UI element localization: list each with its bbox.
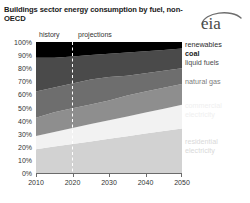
- y-axis-tick: 90%: [18, 52, 32, 59]
- y-axis-tick: 40%: [18, 117, 32, 124]
- y-axis-tick: 50%: [18, 104, 32, 111]
- x-axis-tick: 2050: [174, 179, 190, 186]
- x-axis-tickmark: [73, 173, 74, 177]
- x-axis-tick: 2030: [101, 179, 117, 186]
- y-axis-tick: 80%: [18, 65, 32, 72]
- plot-area: [36, 42, 182, 173]
- y-axis: 100%90%80%70%60%50%40%30%20%10%0%: [0, 42, 34, 173]
- y-axis-tick: 0%: [22, 170, 32, 177]
- label-projections: projections: [78, 31, 112, 38]
- y-axis-tick: 60%: [18, 91, 32, 98]
- legend-item-commercial-electricity: commercial electricity: [185, 102, 247, 119]
- chart-root: Buildings sector energy consumption by f…: [0, 0, 250, 203]
- svg-text:eia: eia: [201, 14, 221, 33]
- y-axis-tick: 30%: [18, 130, 32, 137]
- x-axis-tickmark: [181, 173, 182, 177]
- legend-item-residential-electricity: residential electricity: [185, 138, 247, 155]
- legend-item-liquid-fuels: liquid fuels: [185, 59, 219, 68]
- x-axis-tick: 2020: [65, 179, 81, 186]
- x-axis-tick: 2040: [138, 179, 154, 186]
- x-axis-tick: 2010: [28, 179, 44, 186]
- stacked-area-svg: [36, 42, 182, 173]
- y-axis-tick: 20%: [18, 143, 32, 150]
- eia-logo: eia: [198, 7, 244, 33]
- y-axis-tick: 100%: [14, 39, 32, 46]
- y-axis-tick: 70%: [18, 78, 32, 85]
- page-title: Buildings sector energy consumption by f…: [4, 5, 184, 23]
- x-axis-tickmark: [36, 173, 37, 177]
- x-axis: 20102020203020402050: [36, 173, 186, 195]
- y-axis-tick: 10%: [18, 156, 32, 163]
- x-axis-tickmark: [146, 173, 147, 177]
- x-axis-tickmark: [109, 173, 110, 177]
- label-history: history: [39, 31, 60, 38]
- legend-item-natural-gas: natural gas: [185, 78, 221, 87]
